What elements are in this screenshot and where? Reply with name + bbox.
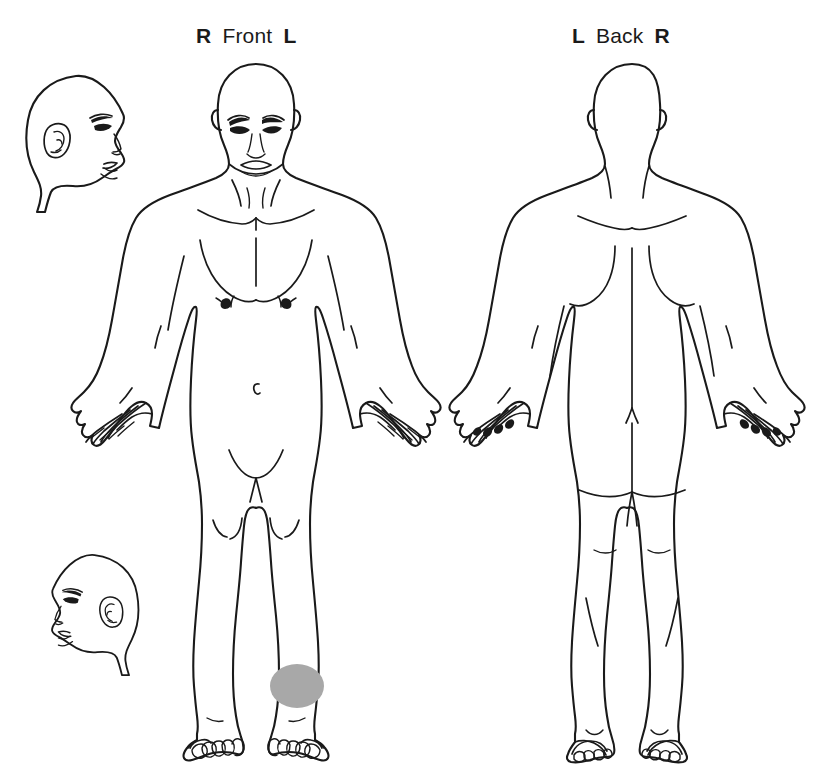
pain-marking-left-ankle[interactable]	[270, 664, 324, 708]
view-labels: RFrontL LBackR	[0, 24, 828, 58]
body-back[interactable]	[446, 58, 818, 764]
back-left-side-letter: L	[572, 24, 585, 47]
body-front-outline	[72, 64, 441, 760]
back-view-name: Back	[596, 24, 644, 47]
body-pain-chart: RFrontL LBackR	[0, 0, 828, 766]
front-left-side-letter: R	[196, 24, 211, 47]
body-front[interactable]	[66, 58, 446, 764]
body-back-outline	[450, 64, 805, 762]
front-view-name: Front	[222, 24, 272, 47]
back-right-side-letter: R	[655, 24, 670, 47]
front-view-label: RFrontL	[196, 24, 296, 48]
back-view-label: LBackR	[572, 24, 670, 48]
front-right-side-letter: L	[283, 24, 296, 47]
